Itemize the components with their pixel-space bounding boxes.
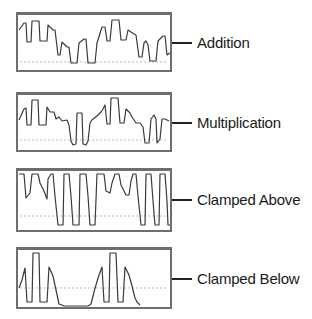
waveform-line <box>19 20 170 63</box>
panel-label-clamped-below: Clamped Below <box>197 270 299 287</box>
waveform-line <box>19 98 169 145</box>
leader-line <box>172 122 192 124</box>
waveform-plot <box>18 15 170 70</box>
panel-label-clamped-above: Clamped Above <box>197 191 300 208</box>
panel-label-multiplication: Multiplication <box>197 114 281 131</box>
waveform-plot <box>18 171 170 230</box>
waveform-line <box>19 253 140 306</box>
waveform-plot <box>18 95 170 150</box>
waveform-panel-clamped-above <box>16 168 172 232</box>
panel-label-addition: Addition <box>197 34 250 51</box>
waveform-line <box>19 174 170 225</box>
leader-line <box>172 199 192 201</box>
waveform-panel-clamped-below <box>16 247 172 309</box>
waveform-panel-addition <box>16 12 172 72</box>
leader-line <box>172 278 192 280</box>
leader-line <box>172 42 192 44</box>
waveform-panel-multiplication <box>16 92 172 152</box>
waveform-plot <box>18 250 170 307</box>
